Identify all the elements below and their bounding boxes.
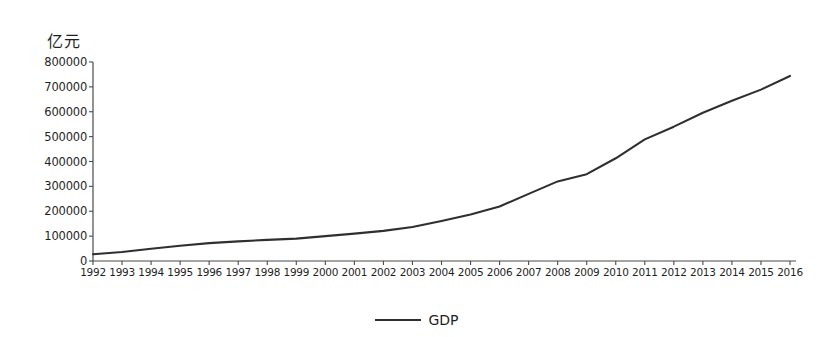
legend-label-gdp: GDP xyxy=(428,312,458,328)
y-axis-tick-labels: 0100000200000300000400000500000600000700… xyxy=(33,0,87,337)
x-axis-tick-label: 2003 xyxy=(400,266,426,278)
chart-legend: GDP xyxy=(0,312,834,328)
data-series-group xyxy=(93,76,790,254)
y-axis-tick-label: 300000 xyxy=(44,179,87,193)
x-axis-tick-label: 2002 xyxy=(371,266,397,278)
x-axis-tick-label: 1994 xyxy=(138,266,164,278)
x-axis-tick-label: 2007 xyxy=(516,266,542,278)
y-axis-tick-label: 500000 xyxy=(44,130,87,144)
x-axis-tick-label: 2001 xyxy=(342,266,368,278)
x-axis-tick-label: 1998 xyxy=(254,266,280,278)
data-line-gdp xyxy=(93,76,790,254)
legend-line-swatch-gdp xyxy=(375,319,421,321)
y-axis-tick-label: 200000 xyxy=(44,204,87,218)
x-axis-tick-label: 2009 xyxy=(574,266,600,278)
x-axis-tick-label: 2013 xyxy=(690,266,716,278)
x-axis-tick-label: 2005 xyxy=(458,266,484,278)
axis-lines xyxy=(93,62,796,261)
y-axis-tick-label: 600000 xyxy=(44,105,87,119)
x-axis-tick-label: 2012 xyxy=(661,266,687,278)
x-axis-tick-label: 1993 xyxy=(109,266,135,278)
x-axis-tick-label: 2008 xyxy=(545,266,571,278)
x-axis-tick-label: 1997 xyxy=(225,266,251,278)
gdp-line-chart: 亿元 0100000200000300000400000500000600000… xyxy=(0,0,834,337)
x-axis-tick-label: 2006 xyxy=(487,266,513,278)
x-axis-tick-label: 2004 xyxy=(429,266,455,278)
x-axis-tick-label: 2010 xyxy=(603,266,629,278)
x-axis-tick-label: 2000 xyxy=(313,266,339,278)
x-axis-tick-label: 2011 xyxy=(632,266,658,278)
x-axis-tick-label: 1992 xyxy=(80,266,106,278)
y-axis-tick-label: 400000 xyxy=(44,155,87,169)
x-axis-tick-label: 2014 xyxy=(719,266,745,278)
y-axis-tick-label: 700000 xyxy=(44,80,87,94)
x-axis-tick-label: 1995 xyxy=(167,266,193,278)
y-axis-tick-label: 100000 xyxy=(44,229,87,243)
x-axis-tick-label: 1999 xyxy=(284,266,310,278)
y-axis-tick-label: 800000 xyxy=(44,55,87,69)
plot-area xyxy=(0,0,834,337)
x-axis-tick-label: 1996 xyxy=(196,266,222,278)
x-axis-tick-label: 2016 xyxy=(777,266,803,278)
x-axis-tick-label: 2015 xyxy=(748,266,774,278)
